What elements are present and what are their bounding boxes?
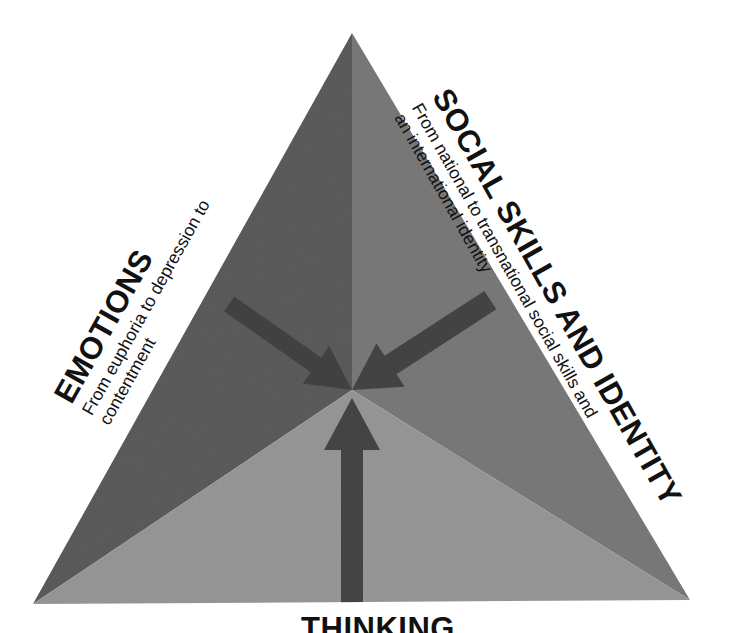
label-thinking: THINKING xyxy=(0,612,756,633)
label-thinking-title: THINKING xyxy=(0,612,756,633)
diagram-canvas: EMOTIONS From euphoria to depression to … xyxy=(0,0,756,633)
